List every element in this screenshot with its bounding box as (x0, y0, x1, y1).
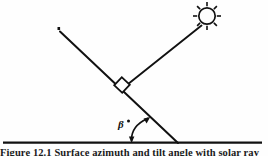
angle-label: β (117, 118, 130, 130)
svg-text:β: β (117, 118, 124, 130)
sun-icon (193, 2, 221, 30)
figure-container: β Figure 12.1 Surface azimuth and tilt a… (0, 0, 268, 156)
ray-tick-mark (58, 27, 61, 30)
figure-caption: Figure 12.1 Surface azimuth and tilt ang… (0, 147, 268, 156)
angle-arc (129, 117, 150, 143)
sun-ray-line (128, 26, 202, 85)
right-angle-marker (114, 77, 130, 93)
diagram-canvas: β (0, 0, 268, 156)
